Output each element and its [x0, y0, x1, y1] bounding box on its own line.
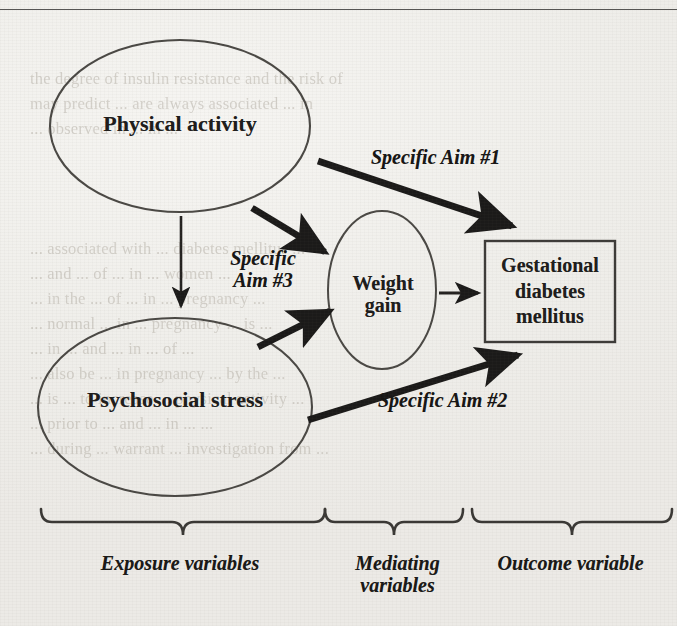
brace-label-mediating-variables: Mediating variables [330, 552, 465, 597]
brace-label-exposure-variables: Exposure variables [55, 552, 305, 574]
edge-aim3-psychosocial-to-weightgain [258, 311, 330, 347]
node-label-psychosocial-stress: Psychosocial stress [42, 388, 308, 413]
scanned-page: the degree of insulin resistance and the… [0, 0, 677, 626]
brace-mediating-variables [325, 509, 463, 535]
brace-outcome-variable [472, 509, 672, 535]
brace-exposure-variables [41, 509, 325, 535]
edge-label-specific-aim-1: Specific Aim #1 [371, 147, 500, 169]
node-label-weight-gain: Weight gain [333, 272, 433, 317]
edge-aim3-physical-to-weightgain [252, 208, 325, 252]
edge-aim1-physical-to-gdm [318, 161, 512, 226]
node-label-gestational-diabetes: Gestational diabetes mellitus [487, 253, 613, 330]
edge-label-specific-aim-2: Specific Aim #2 [378, 390, 507, 412]
brace-label-outcome-variable: Outcome variable [468, 552, 673, 574]
edge-label-specific-aim-3: Specific Aim #3 [213, 248, 313, 291]
node-label-physical-activity: Physical activity [60, 112, 300, 137]
